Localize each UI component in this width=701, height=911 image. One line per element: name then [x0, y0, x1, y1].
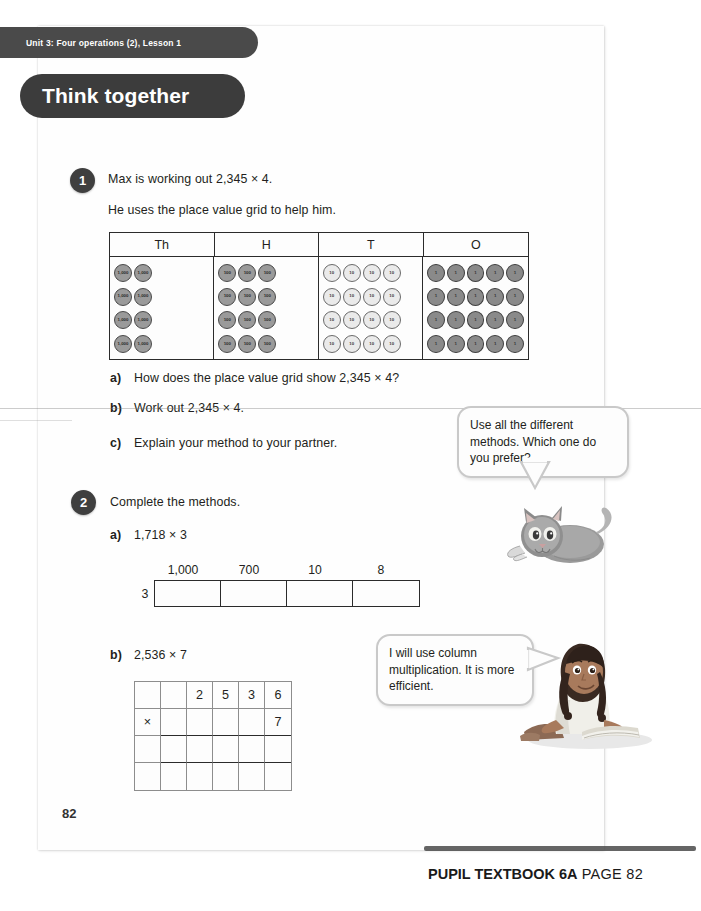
place-value-counter: 1	[506, 335, 524, 353]
place-value-counter: 10	[323, 288, 341, 306]
question-1-badge: 1	[70, 168, 95, 193]
column-grid-cell-empty[interactable]	[187, 763, 213, 790]
counter-row: 10101010	[323, 264, 419, 282]
column-multiplication-grid: 2536×7	[134, 681, 292, 791]
place-value-counter: 10	[363, 335, 381, 353]
column-grid-cell-empty[interactable]	[161, 763, 187, 790]
place-value-counter: 1,000	[114, 335, 132, 353]
place-value-counter: 1	[427, 264, 445, 282]
column-grid-cell-empty[interactable]	[213, 736, 239, 763]
place-value-counter: 10	[323, 264, 341, 282]
place-value-counter: 1	[447, 311, 465, 329]
place-value-counter: 1	[447, 264, 465, 282]
place-value-counter: 1,000	[134, 288, 152, 306]
place-value-counter: 100	[258, 335, 276, 353]
partition-cell-1[interactable]	[221, 581, 287, 606]
counter-row: 1,0001,000	[114, 288, 210, 306]
partition-cell-2[interactable]	[287, 581, 353, 606]
place-value-counter: 1	[506, 264, 524, 282]
partition-cell-0[interactable]	[155, 581, 221, 606]
column-grid-cell-empty[interactable]	[187, 709, 213, 736]
counter-row: 10101010	[323, 335, 419, 353]
place-value-counter: 10	[323, 335, 341, 353]
counter-row: 11111	[427, 264, 525, 282]
place-value-counter: 100	[218, 335, 236, 353]
unit-lesson-tab: Unit 3: Four operations (2), Lesson 1	[0, 27, 258, 58]
place-value-counter: 1,000	[134, 311, 152, 329]
column-grid-row: ×7	[135, 709, 291, 736]
partition-labels-row: 1,000 700 10 8	[150, 563, 420, 577]
q2-part-b-label: b)	[110, 648, 122, 662]
column-grid-cell-empty[interactable]	[239, 736, 265, 763]
column-grid-row: 2536	[135, 682, 291, 709]
girl-speech-text: I will use column multiplication. It is …	[389, 646, 514, 693]
pv-column-t: 10101010101010101010101010101010	[319, 257, 423, 359]
place-value-counter: 10	[343, 264, 361, 282]
pv-header-th: Th	[110, 233, 215, 256]
counter-row: 100100100	[218, 335, 314, 353]
pv-header-t: T	[319, 233, 424, 256]
counter-row: 11111	[427, 335, 525, 353]
place-value-counter: 10	[363, 264, 381, 282]
footer-divider-bar	[424, 846, 696, 851]
column-grid-cell-empty[interactable]	[135, 682, 161, 709]
place-value-counter-area: 1,0001,0001,0001,0001,0001,0001,0001,000…	[110, 257, 528, 359]
place-value-counter: 1	[427, 335, 445, 353]
place-value-counter: 10	[383, 264, 401, 282]
place-value-counter: 1,000	[114, 288, 132, 306]
place-value-counter: 100	[238, 264, 256, 282]
place-value-counter: 1	[506, 288, 524, 306]
question-2-line-1: Complete the methods.	[110, 494, 240, 511]
place-value-counter: 10	[383, 335, 401, 353]
page-number: 82	[62, 806, 76, 821]
partition-cells	[154, 580, 420, 607]
unit-lesson-label: Unit 3: Four operations (2), Lesson 1	[26, 38, 181, 48]
column-grid-cell-empty[interactable]	[135, 763, 161, 790]
place-value-counter: 1,000	[134, 335, 152, 353]
column-grid-cell-filled: 6	[265, 682, 291, 709]
column-grid-cell-empty[interactable]	[187, 736, 213, 763]
column-grid-cell-empty[interactable]	[135, 736, 161, 763]
place-value-counter: 1,000	[114, 311, 132, 329]
place-value-counter: 1	[486, 288, 504, 306]
partition-answer-row: 3	[140, 580, 420, 607]
place-value-counter: 1	[447, 335, 465, 353]
partition-method-box: 1,000 700 10 8 3	[140, 563, 420, 607]
place-value-counter: 1	[486, 335, 504, 353]
q1-part-a-text: How does the place value grid show 2,345…	[134, 371, 399, 385]
question-2-badge: 2	[71, 490, 96, 515]
column-grid-cell-empty[interactable]	[239, 763, 265, 790]
partition-cell-3[interactable]	[353, 581, 419, 606]
place-value-counter: 10	[383, 311, 401, 329]
pv-header-h: H	[215, 233, 320, 256]
cat-illustration	[492, 498, 622, 570]
place-value-counter: 100	[218, 288, 236, 306]
q1-part-c-label: c)	[110, 436, 121, 450]
partition-label-2: 10	[282, 563, 348, 577]
girl-speech-bubble: I will use column multiplication. It is …	[376, 634, 534, 706]
pv-column-th: 1,0001,0001,0001,0001,0001,0001,0001,000	[110, 257, 214, 359]
place-value-counter: 100	[258, 311, 276, 329]
place-value-counter: 100	[238, 288, 256, 306]
counter-row: 100100100	[218, 288, 314, 306]
cat-speech-bubble: Use all the different methods. Which one…	[457, 406, 629, 478]
column-grid-cell-empty[interactable]	[161, 736, 187, 763]
column-grid-cell-empty[interactable]	[161, 709, 187, 736]
column-grid-cell-empty[interactable]	[239, 709, 265, 736]
place-value-counter: 10	[363, 311, 381, 329]
column-grid-cell-empty[interactable]	[161, 682, 187, 709]
cat-bubble-tail	[515, 462, 555, 492]
partition-multiplier: 3	[140, 580, 150, 607]
column-grid-cell-filled: 3	[239, 682, 265, 709]
counter-row: 11111	[427, 311, 525, 329]
column-grid-cell-empty[interactable]	[265, 736, 291, 763]
place-value-counter: 100	[258, 288, 276, 306]
column-grid-cell-empty[interactable]	[213, 763, 239, 790]
column-grid-cell-empty[interactable]	[265, 763, 291, 790]
column-grid-cell-empty[interactable]	[213, 709, 239, 736]
q1-part-c-text: Explain your method to your partner.	[134, 436, 337, 450]
place-value-counter: 1	[486, 311, 504, 329]
counter-row: 11111	[427, 288, 525, 306]
column-grid-cell-filled: 5	[213, 682, 239, 709]
q2-part-b-text: 2,536 × 7	[134, 648, 187, 662]
